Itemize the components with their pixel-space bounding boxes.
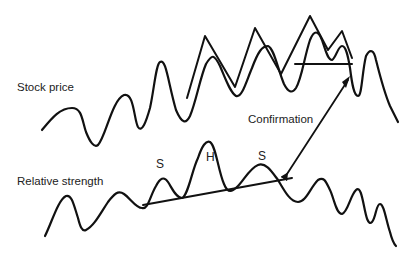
relative-strength-label: Relative strength [17,176,103,188]
diagram-canvas: Stock price Relative strength Confirmati… [0,0,413,259]
relative-strength-line [45,142,396,246]
confirmation-label: Confirmation [248,114,313,126]
head-label: H [206,151,215,163]
right-shoulder-label: S [258,150,266,162]
stock-price-line [42,33,398,146]
neckline [143,178,292,205]
left-shoulder-label: S [156,158,164,170]
stock-price-label: Stock price [17,82,74,94]
confirmation-arrow [287,80,348,174]
